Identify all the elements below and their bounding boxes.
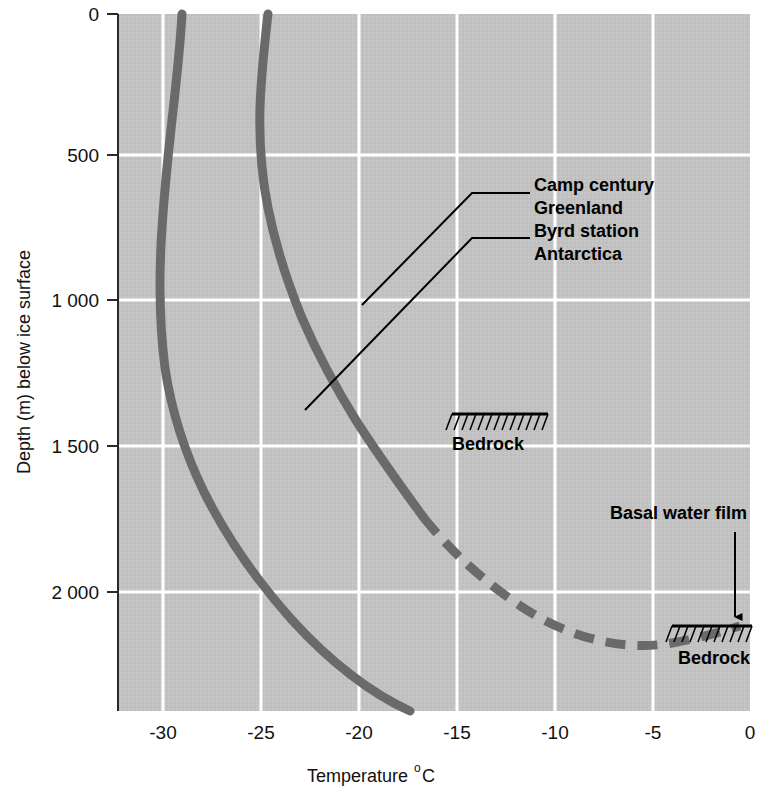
y-axis-title: Depth (m) below ice surface — [14, 250, 34, 474]
xtick-label--30: -30 — [149, 722, 176, 743]
bedrock-label-upper: Bedrock — [452, 434, 525, 454]
x-axis-title-unit: C — [422, 766, 435, 786]
camp-century-label-line2: Greenland — [534, 198, 623, 218]
x-axis-title-main: Temperature — [307, 766, 408, 786]
xtick-label--25: -25 — [247, 722, 274, 743]
x-axis-title-degree: o — [414, 761, 421, 775]
ytick-label-2000: 2 000 — [51, 582, 99, 603]
camp-century-label-line1: Camp century — [534, 175, 654, 195]
ytick-label-500: 500 — [67, 145, 99, 166]
xtick-label--5: -5 — [645, 722, 662, 743]
basal-water-film-label: Basal water film — [610, 503, 747, 523]
xtick-label--15: -15 — [443, 722, 470, 743]
xtick-label--20: -20 — [345, 722, 372, 743]
xtick-label-0: 0 — [745, 722, 756, 743]
xtick-label--10: -10 — [541, 722, 568, 743]
byrd-label-line2: Antarctica — [534, 244, 623, 264]
ytick-label-0: 0 — [88, 4, 99, 25]
bedrock-label-lower: Bedrock — [678, 648, 751, 668]
byrd-label-line1: Byrd station — [534, 221, 639, 241]
chart-figure: 0 500 1 000 1 500 2 000 Depth (m) below … — [0, 0, 762, 806]
ytick-label-1500: 1 500 — [51, 436, 99, 457]
temperature-depth-chart: 0 500 1 000 1 500 2 000 Depth (m) below … — [0, 0, 762, 806]
ytick-label-1000: 1 000 — [51, 290, 99, 311]
plot-area-background — [118, 14, 750, 711]
